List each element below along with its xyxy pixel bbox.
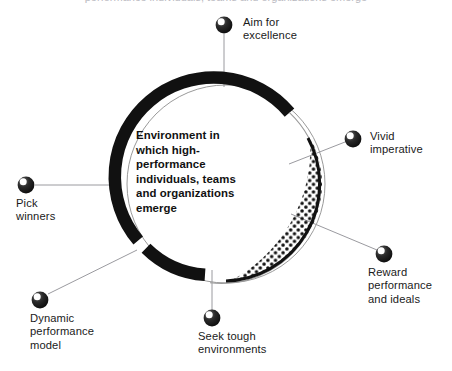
diagram-canvas: performance individuals, teams and organ… xyxy=(0,0,452,371)
bullet-dynamic-performance-model[interactable] xyxy=(32,292,49,309)
ring-arc-tail xyxy=(146,248,205,275)
bullet-seek-tough-environments[interactable] xyxy=(204,310,221,327)
bullet-pick-winners[interactable] xyxy=(18,177,35,194)
connector-dynamic-performance-model xyxy=(48,250,137,294)
label-dynamic-performance-model: Dynamic performance model xyxy=(30,312,94,352)
label-pick-winners: Pick winners xyxy=(16,197,55,224)
label-reward-performance-and-ideals: Reward performance and ideals xyxy=(368,266,432,306)
label-aim-for-excellence: Aim for excellence xyxy=(243,16,297,43)
label-vivid-imperative: Vivid imperative xyxy=(370,130,423,157)
bullet-vivid-imperative[interactable] xyxy=(345,131,362,148)
center-text-block: Environment in which high- performance i… xyxy=(136,128,244,216)
bullet-aim-for-excellence[interactable] xyxy=(216,17,233,34)
bullet-reward-performance-and-ideals[interactable] xyxy=(376,246,393,263)
label-seek-tough-environments: Seek tough environments xyxy=(198,330,267,357)
